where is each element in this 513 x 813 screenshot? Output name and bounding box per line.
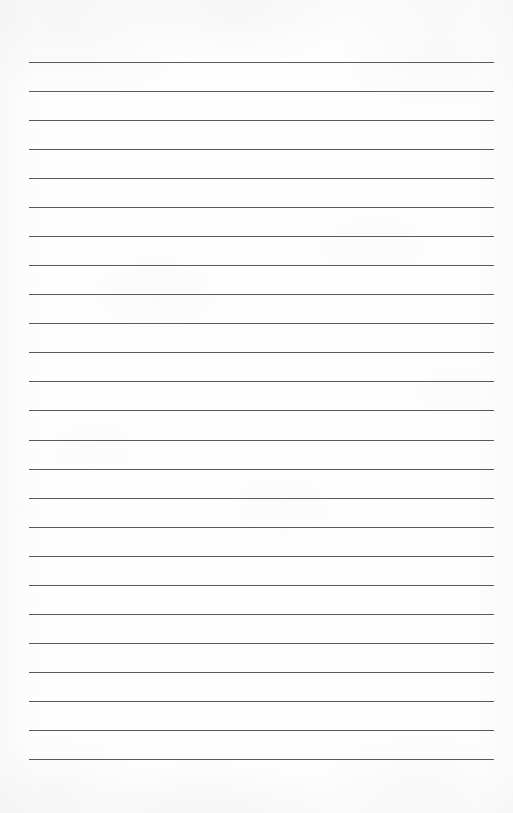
- ruled-line: [29, 265, 494, 266]
- ruled-line: [29, 62, 494, 63]
- ruled-line: [29, 178, 494, 179]
- ruled-line: [29, 294, 494, 295]
- ruled-line: [29, 730, 494, 731]
- ruled-line: [29, 352, 494, 353]
- ruled-line: [29, 614, 494, 615]
- ruled-line: [29, 440, 494, 441]
- ruled-line: [29, 381, 494, 382]
- ruled-line: [29, 556, 494, 557]
- ruled-line: [29, 149, 494, 150]
- ruled-line: [29, 91, 494, 92]
- ruled-line: [29, 585, 494, 586]
- ruled-line: [29, 323, 494, 324]
- ruled-line: [29, 701, 494, 702]
- ruled-line: [29, 672, 494, 673]
- lined-paper-page: [0, 0, 513, 813]
- ruled-line: [29, 469, 494, 470]
- ruled-line: [29, 498, 494, 499]
- ruled-line: [29, 207, 494, 208]
- ruled-line: [29, 759, 494, 760]
- ruled-line: [29, 643, 494, 644]
- ruled-line: [29, 236, 494, 237]
- ruled-line: [29, 120, 494, 121]
- ruled-line: [29, 527, 494, 528]
- ruled-lines-group: [0, 0, 513, 813]
- ruled-line: [29, 410, 494, 411]
